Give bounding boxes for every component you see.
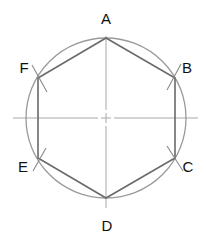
hexagon-construction-diagram: A B C D E F [0, 0, 206, 251]
label-B: B [182, 59, 192, 76]
arc-mark-E [33, 148, 46, 171]
label-E: E [18, 158, 28, 175]
label-D: D [102, 217, 113, 234]
label-A: A [101, 10, 111, 27]
label-F: F [19, 59, 28, 76]
label-C: C [183, 158, 194, 175]
center-lines [13, 36, 198, 208]
arc-mark-F [32, 65, 47, 92]
